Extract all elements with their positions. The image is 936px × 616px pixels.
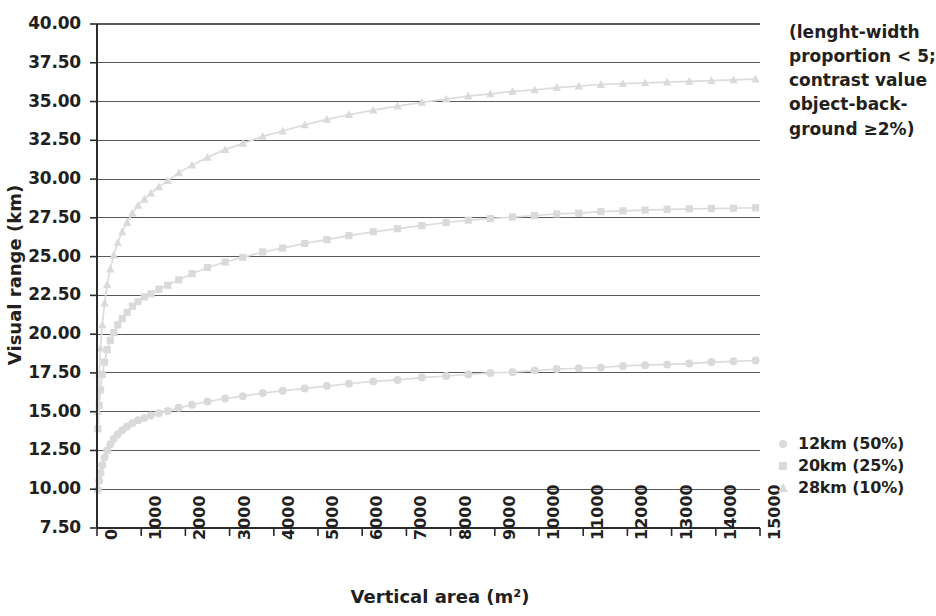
series-marker-circle — [619, 362, 627, 370]
series-marker-circle — [221, 395, 229, 403]
x-tick-label: 14000 — [723, 484, 739, 540]
series-marker-circle — [597, 363, 605, 371]
series-marker-square — [641, 206, 648, 213]
series-marker-square — [323, 236, 330, 243]
series-marker-square — [509, 213, 516, 220]
series-marker-square — [279, 244, 286, 251]
x-tick-label: 13000 — [679, 484, 695, 540]
series-marker-circle — [164, 407, 172, 415]
legend-circle-icon — [775, 435, 791, 451]
series-line-1 — [98, 208, 756, 429]
series-marker-circle — [204, 398, 212, 406]
series-marker-circle — [508, 368, 516, 376]
series-marker-square — [101, 358, 108, 365]
x-tick-label: 1000 — [148, 495, 164, 540]
x-axis-title: Vertical area (m²) — [300, 588, 580, 606]
y-axis-title: Visual range (km) — [6, 160, 24, 390]
series-marker-triangle — [118, 227, 126, 235]
x-tick-label: 2000 — [192, 495, 208, 540]
x-tick-label: 4000 — [281, 495, 297, 540]
series-marker-square — [345, 232, 352, 239]
annotation-line: (lenght-width — [789, 20, 909, 44]
series-marker-square — [487, 215, 494, 222]
series-marker-square — [119, 315, 126, 322]
series-marker-square — [575, 210, 582, 217]
chart-legend: 12km (50%)20km (25%)28km (10%) — [775, 432, 905, 498]
annotation-line: ground ≥2%) — [789, 117, 909, 141]
series-marker-square — [259, 248, 266, 255]
x-tick-label: 9000 — [502, 495, 518, 540]
y-tick-label: 15.00 — [0, 403, 81, 420]
series-line-0 — [98, 361, 756, 490]
series-marker-triangle — [175, 168, 183, 176]
series-marker-circle — [98, 461, 106, 469]
series-marker-circle — [147, 412, 155, 420]
series-marker-circle — [531, 367, 539, 375]
series-marker-triangle — [106, 265, 114, 273]
series-marker-circle — [418, 374, 426, 382]
legend-item-label: 28km (10%) — [798, 478, 904, 497]
x-tick-label: 6000 — [369, 495, 385, 540]
series-line-2 — [98, 79, 756, 412]
series-marker-circle — [239, 392, 247, 400]
legend-item-label: 20km (25%) — [798, 456, 904, 475]
series-marker-circle — [707, 358, 715, 366]
series-marker-square — [123, 309, 130, 316]
series-marker-square — [531, 212, 538, 219]
x-tick-label: 10000 — [546, 484, 562, 540]
annotation-line: proportion < 5; — [789, 44, 909, 68]
series-marker-circle — [175, 404, 183, 412]
tick-marks — [90, 24, 760, 536]
series-marker-circle — [729, 357, 737, 365]
series-marker-square — [686, 205, 693, 212]
series-marker-circle — [442, 372, 450, 380]
legend-item-triangle[interactable]: 28km (10%) — [775, 476, 905, 498]
series-marker-square — [730, 205, 737, 212]
y-tick-label: 7.50 — [0, 519, 81, 536]
series-marker-triangle — [114, 238, 122, 246]
legend-item-square[interactable]: 20km (25%) — [775, 454, 905, 476]
legend-item-circle[interactable]: 12km (50%) — [775, 432, 905, 454]
series-marker-square — [465, 217, 472, 224]
x-tick-label: 5000 — [325, 495, 341, 540]
y-tick-label: 32.50 — [0, 131, 81, 148]
series-marker-circle — [464, 370, 472, 378]
series-marker-square — [204, 264, 211, 271]
series-marker-circle — [345, 380, 353, 388]
series-marker-circle — [752, 357, 760, 365]
series-marker-square — [114, 321, 121, 328]
series-marker-circle — [301, 384, 309, 392]
series-marker-circle — [323, 382, 331, 390]
series-marker-square — [135, 298, 142, 305]
series-marker-square — [708, 205, 715, 212]
series-marker-circle — [369, 377, 377, 385]
series-marker-triangle — [100, 299, 108, 307]
series-marker-circle — [259, 389, 267, 397]
legend-item-label: 12km (50%) — [798, 434, 904, 453]
series-marker-triangle — [155, 182, 163, 190]
y-tick-label: 35.00 — [0, 93, 81, 110]
series-marker-square — [155, 286, 162, 293]
series-marker-triangle — [164, 176, 172, 184]
series-marker-square — [664, 206, 671, 213]
series-marker-circle — [575, 364, 583, 372]
series-marker-square — [239, 254, 246, 261]
series-marker-triangle — [110, 251, 118, 259]
series-marker-triangle — [123, 218, 131, 226]
series-marker-circle — [188, 401, 196, 409]
x-tick-label: 7000 — [413, 495, 429, 540]
series-marker-square — [147, 290, 154, 297]
series-marker-square — [107, 337, 114, 344]
series-marker-square — [301, 240, 308, 247]
annotation-line: object-back- — [789, 92, 909, 116]
series-marker-square — [164, 282, 171, 289]
series-marker-circle — [101, 453, 109, 461]
series-marker-circle — [553, 365, 561, 373]
series-marker-circle — [641, 361, 649, 369]
series-marker-circle — [685, 360, 693, 368]
series-marker-square — [394, 225, 401, 232]
y-tick-label: 10.00 — [0, 480, 81, 497]
legend-triangle-icon — [775, 479, 791, 495]
series-marker-square — [188, 270, 195, 277]
